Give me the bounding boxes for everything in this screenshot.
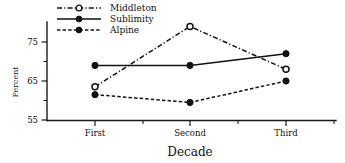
- data-point-middleton-third: [283, 66, 289, 72]
- data-point-alpine-third: [283, 78, 289, 84]
- legend-marker-sublimity: [76, 16, 82, 22]
- legend-label-sublimity: Sublimity: [110, 14, 155, 24]
- legend: Middleton Sublimity Alpine: [57, 3, 157, 35]
- series-sublimity: [92, 51, 289, 69]
- y-tick-label-65: 65: [27, 76, 38, 86]
- legend-marker-alpine: [76, 27, 82, 33]
- chart-container: 75 65 55 Percent First Second Third Deca…: [0, 0, 345, 163]
- legend-marker-middleton: [76, 5, 82, 11]
- data-point-sublimity-second: [187, 62, 193, 68]
- series-alpine: [92, 78, 289, 106]
- data-point-middleton-first: [92, 84, 98, 90]
- y-axis-title: Percent: [11, 66, 20, 98]
- x-label-second: Second: [174, 128, 206, 138]
- x-label-third: Third: [274, 128, 298, 138]
- data-point-sublimity-third: [283, 51, 289, 57]
- line-chart: 75 65 55 Percent First Second Third Deca…: [0, 0, 345, 163]
- data-point-alpine-first: [92, 92, 98, 98]
- data-point-middleton-second: [187, 23, 193, 29]
- y-tick-label-55: 55: [27, 115, 38, 125]
- data-point-alpine-second: [187, 99, 193, 105]
- x-label-first: First: [85, 128, 106, 138]
- y-tick-label-75: 75: [27, 37, 38, 47]
- legend-label-middleton: Middleton: [110, 3, 157, 13]
- x-axis-title: Decade: [167, 145, 212, 159]
- series-layer: [92, 23, 289, 105]
- legend-label-alpine: Alpine: [109, 25, 139, 35]
- data-point-sublimity-first: [92, 62, 98, 68]
